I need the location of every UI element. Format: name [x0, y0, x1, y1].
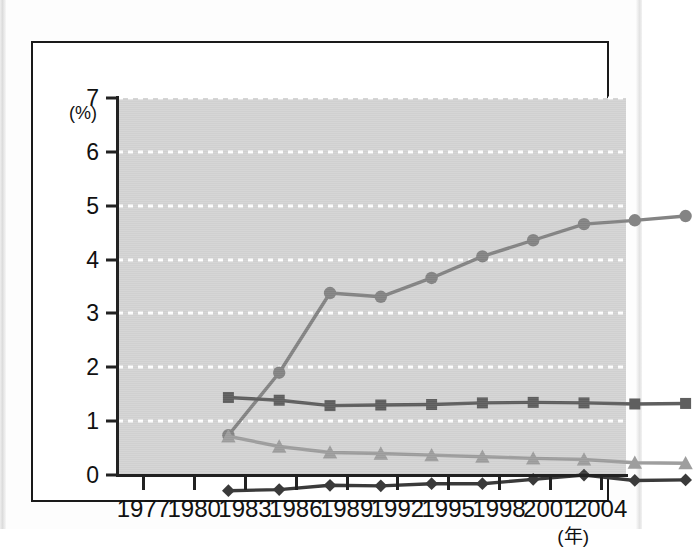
series-circle-marker-1989	[425, 272, 437, 284]
series-square	[223, 392, 691, 411]
y-tick-mark-3	[106, 312, 118, 315]
series-square-marker-1980	[274, 395, 285, 406]
x-tick-mark-2004	[600, 477, 603, 490]
y-tick-mark-0	[106, 474, 118, 477]
x-tick-label-1995: 1995	[421, 495, 474, 523]
y-tick-label-3: 3	[53, 302, 99, 325]
x-tick-label-1989: 1989	[320, 495, 373, 523]
series-diamond	[222, 469, 692, 497]
series-square-marker-1977	[223, 392, 234, 403]
series-circle-marker-2004	[679, 210, 691, 222]
y-tick-label-5: 5	[53, 194, 99, 217]
y-tick-mark-2	[106, 366, 118, 369]
series-square-marker-2004	[680, 398, 691, 409]
series-square-marker-1995	[528, 397, 539, 408]
series-square-marker-2001	[629, 398, 640, 409]
series-circle	[222, 210, 692, 442]
series-diamond-marker-1983	[324, 479, 337, 492]
series-square-marker-1989	[426, 399, 437, 410]
series-diamond-marker-2001	[628, 474, 641, 487]
x-tick-label-2001: 2001	[523, 495, 576, 523]
x-tick-mark-1977	[142, 477, 145, 490]
y-tick-label-2: 2	[53, 356, 99, 379]
x-tick-label-1983: 1983	[218, 495, 271, 523]
series-triangle-line	[228, 436, 685, 463]
series-diamond-marker-1986	[374, 479, 387, 492]
y-tick-mark-4	[106, 258, 118, 261]
series-circle-marker-2001	[629, 214, 641, 226]
series-square-marker-1986	[375, 400, 386, 411]
series-square-marker-1998	[579, 397, 590, 408]
y-tick-mark-6	[106, 150, 118, 153]
y-tick-label-7: 7	[53, 87, 99, 110]
series-circle-marker-1995	[527, 234, 539, 246]
y-tick-mark-7	[106, 97, 118, 100]
plot-area	[118, 98, 626, 475]
x-tick-mark-1992	[396, 477, 399, 490]
x-tick-mark-2001	[549, 477, 552, 490]
series-diamond-marker-1992	[476, 477, 489, 490]
x-tick-label-1977: 1977	[117, 495, 170, 523]
y-tick-mark-5	[106, 204, 118, 207]
series-square-marker-1983	[325, 400, 336, 411]
y-tick-label-0: 0	[53, 464, 99, 487]
x-tick-mark-1995	[447, 477, 450, 490]
series-circle-marker-1998	[578, 218, 590, 230]
x-tick-label-1986: 1986	[269, 495, 322, 523]
x-tick-mark-1998	[498, 477, 501, 490]
chart-frame: (%) 01234567 197719801983198619891992199…	[31, 41, 609, 502]
x-tick-label-1992: 1992	[371, 495, 424, 523]
series-square-marker-1992	[477, 397, 488, 408]
y-tick-mark-1	[106, 420, 118, 423]
series-circle-marker-1986	[375, 291, 387, 303]
series-square-line	[228, 398, 685, 406]
x-tick-mark-1980	[193, 477, 196, 490]
x-tick-mark-1983	[244, 477, 247, 490]
series-diamond-marker-2004	[679, 474, 692, 487]
x-tick-mark-1986	[295, 477, 298, 490]
x-axis-unit-label: (年)	[557, 521, 589, 548]
y-tick-label-1: 1	[53, 410, 99, 433]
series-circle-marker-1983	[324, 287, 336, 299]
y-tick-label-6: 6	[53, 140, 99, 163]
gridline-7	[118, 97, 626, 100]
series-circle-marker-1980	[273, 367, 285, 379]
x-tick-label-1998: 1998	[472, 495, 525, 523]
y-tick-label-4: 4	[53, 248, 99, 271]
page-edge-left	[0, 0, 6, 529]
x-tick-label-1980: 1980	[167, 495, 220, 523]
series-circle-marker-1992	[476, 250, 488, 262]
x-tick-mark-1989	[346, 477, 349, 490]
series-triangle	[221, 429, 693, 469]
x-tick-label-2004: 2004	[574, 495, 627, 523]
series-diamond-marker-1989	[425, 477, 438, 490]
